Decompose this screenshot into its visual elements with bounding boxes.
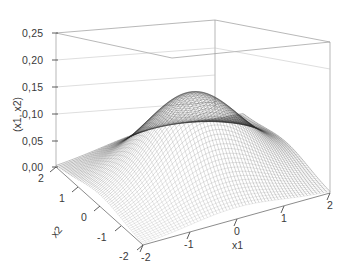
z-tick-label: 0,25 <box>22 27 43 39</box>
x2-tick-label: -2 <box>119 250 129 262</box>
z-tick-label: 0,15 <box>22 81 43 93</box>
surface-plot-figure <box>0 0 345 278</box>
x2-tick-label: 1 <box>59 192 65 204</box>
z-tick-label: 0,20 <box>22 54 43 66</box>
x1-tick-label: 0 <box>234 225 240 237</box>
z-axis-title: (x1, x2) <box>11 97 23 132</box>
z-tick-label: 0,10 <box>22 108 43 120</box>
x1-axis-title: x1 <box>232 239 243 251</box>
x2-tick-label: 0 <box>81 211 87 223</box>
x2-tick-label: 2 <box>38 172 44 184</box>
x1-tick-label: -1 <box>184 238 194 250</box>
x1-tick-label: 2 <box>327 199 333 211</box>
plot-background <box>0 0 345 278</box>
x2-tick-label: -1 <box>97 231 107 243</box>
x1-tick-label: 1 <box>281 212 287 224</box>
z-tick-label: 0,05 <box>22 135 43 147</box>
x1-tick-label: -2 <box>141 251 151 263</box>
